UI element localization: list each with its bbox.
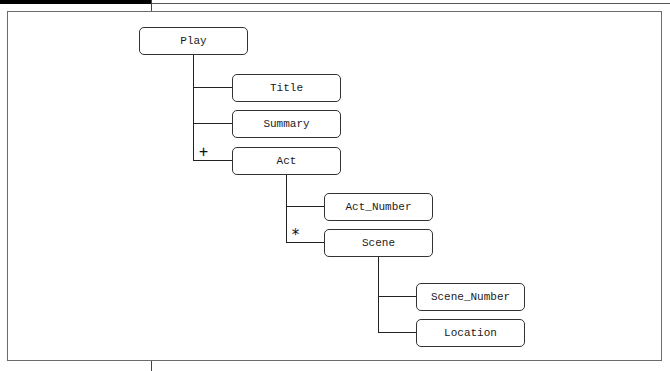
connector-scene-location	[378, 332, 416, 333]
node-scene-number: Scene_Number	[416, 283, 525, 311]
cardinality-star-marker: *	[291, 228, 300, 243]
node-title: Title	[232, 74, 341, 102]
node-act-number: Act_Number	[324, 193, 433, 221]
top-header-bar	[0, 0, 152, 4]
node-location: Location	[416, 319, 525, 347]
cardinality-plus-marker: +	[199, 145, 208, 160]
node-scene: Scene	[324, 229, 433, 257]
connector-play-trunk	[193, 55, 194, 161]
connector-act-actnumber	[286, 206, 324, 207]
top-rule	[152, 3, 670, 4]
column-divider-bottom	[151, 360, 152, 371]
connector-play-title	[193, 87, 232, 88]
connector-scene-trunk	[378, 257, 379, 333]
node-play: Play	[139, 27, 248, 55]
node-act: Act	[232, 147, 341, 175]
connector-act-trunk	[286, 175, 287, 243]
connector-scene-scenenumber	[378, 296, 416, 297]
node-summary: Summary	[232, 110, 341, 138]
connector-play-summary	[193, 123, 232, 124]
diagram-frame	[7, 11, 662, 361]
